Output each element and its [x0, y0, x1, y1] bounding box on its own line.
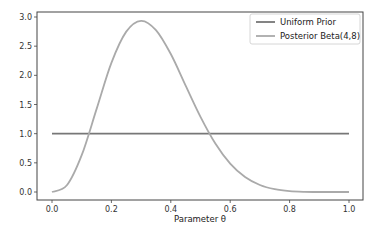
chart: 0.00.20.40.60.81.0 0.00.51.01.52.02.53.0… [0, 0, 382, 233]
y-tick-label: 0.0 [19, 188, 32, 197]
legend-label-posterior: Posterior Beta(4,8) [280, 31, 360, 41]
y-tick-label: 0.5 [19, 159, 32, 168]
legend-label-uniform-prior: Uniform Prior [280, 17, 337, 27]
x-tick-label: 0.8 [283, 205, 296, 214]
y-tick-label: 3.0 [19, 13, 32, 22]
x-axis-label: Parameter θ [174, 214, 226, 224]
y-tick-label: 1.0 [19, 130, 32, 139]
y-tick-label: 2.0 [19, 71, 32, 80]
x-tick-label: 0.4 [164, 205, 177, 214]
y-tick-label: 1.5 [19, 101, 32, 110]
x-tick-label: 0.6 [224, 205, 237, 214]
x-tick-label: 0.2 [105, 205, 118, 214]
x-tick-label: 0.0 [46, 205, 59, 214]
x-tick-label: 1.0 [343, 205, 356, 214]
legend: Uniform Prior Posterior Beta(4,8) [250, 14, 360, 44]
y-tick-label: 2.5 [19, 42, 32, 51]
